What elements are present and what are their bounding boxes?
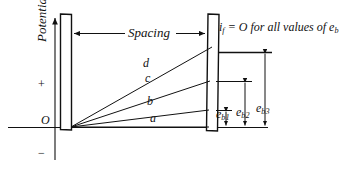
curve-label-a: a [150, 112, 156, 124]
spacing-label: Spacing [128, 26, 170, 39]
origin-label: O [41, 114, 50, 126]
if-note-body-sub: b [334, 26, 338, 35]
curve-label-d: d [143, 57, 149, 69]
if-zero-note: if = O for all values of eb [219, 21, 338, 35]
eb3-sub: b3 [261, 107, 269, 116]
voltage-label-eb2: eb2 [236, 106, 249, 120]
left-plate [61, 14, 72, 130]
voltage-label-eb3: eb3 [256, 102, 269, 116]
curve-label-c: c [145, 72, 150, 84]
voltage-label-eb1: eb1 [216, 108, 229, 122]
curve-label-b: b [147, 95, 153, 107]
if-note-body: = O for all values of e [225, 20, 335, 34]
eb2-sub: b2 [241, 111, 249, 120]
potential-axis-label: Potential [35, 0, 48, 42]
plus-sign-label: + [38, 78, 45, 90]
curve-b [71, 110, 209, 127]
potential-distribution-figure: Potential + − O Spacing if = O for all v… [0, 0, 355, 174]
eb1-sub: b1 [221, 113, 229, 122]
minus-sign-label: − [38, 147, 45, 159]
